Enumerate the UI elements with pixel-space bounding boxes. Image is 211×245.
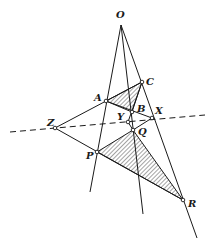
label-a: A — [93, 92, 102, 103]
point-x — [150, 116, 154, 120]
point-r — [181, 198, 185, 202]
point-b — [130, 110, 134, 114]
point-a — [104, 99, 108, 103]
label-x: X — [154, 105, 164, 116]
point-y — [126, 120, 130, 124]
label-q: Q — [138, 126, 147, 137]
desargues-axis — [10, 115, 205, 132]
desargues-diagram: O A B C P Q R X Y Z — [0, 0, 211, 245]
label-c: C — [146, 76, 154, 87]
point-c — [140, 80, 144, 84]
label-r: R — [187, 198, 196, 209]
label-p: P — [85, 150, 94, 161]
label-o: O — [116, 9, 125, 20]
point-q — [131, 128, 135, 132]
label-z: Z — [46, 117, 55, 128]
ray-ob — [121, 25, 143, 214]
label-y: Y — [117, 111, 125, 122]
label-b: B — [136, 103, 145, 114]
point-p — [95, 150, 99, 154]
ray-oa — [90, 25, 121, 192]
